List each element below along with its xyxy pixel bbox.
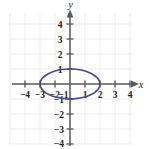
x-tick-label--4: −4 — [20, 90, 30, 100]
y-tick-label-4: 4 — [58, 20, 63, 30]
y-axis-label: y — [67, 0, 73, 10]
y-tick-label-2: 2 — [58, 50, 63, 60]
x-tick-label-3: 3 — [113, 90, 118, 100]
graph-svg: −4 −3 −2 −1 1 2 3 4 4 3 2 1 −1 −2 −3 −4 … — [0, 0, 149, 149]
up-arrow-icon — [67, 10, 74, 18]
coordinate-plane-figure: −4 −3 −2 −1 1 2 3 4 4 3 2 1 −1 −2 −3 −4 … — [0, 0, 149, 149]
x-tick-label-2: 2 — [98, 90, 103, 100]
y-tick-label--2: −2 — [54, 110, 64, 120]
x-axis-label: x — [138, 79, 144, 90]
grid-lines — [10, 14, 132, 145]
y-tick-label--4: −4 — [54, 139, 64, 149]
y-tick-label--3: −3 — [54, 125, 64, 135]
x-tick-label-4: 4 — [128, 90, 133, 100]
axes-lines — [12, 17, 131, 146]
y-tick-label-3: 3 — [58, 35, 63, 45]
y-tick-label--1: −1 — [54, 95, 64, 105]
